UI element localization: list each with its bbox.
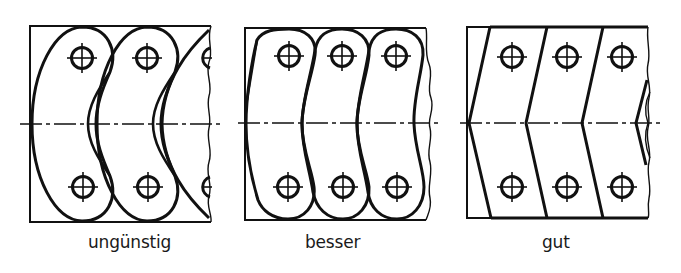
hole-icon (607, 42, 637, 72)
hole-icon (552, 42, 582, 72)
hole-icon (132, 43, 162, 73)
caption-gut: gut (542, 232, 570, 252)
hole-icon (382, 172, 412, 202)
hole-icon (68, 172, 98, 202)
hole-icon (497, 42, 527, 72)
caption-besser: besser (305, 232, 360, 252)
hole-icon (273, 172, 303, 202)
panel-gut (460, 27, 661, 218)
hole-icon (381, 41, 411, 71)
panel-unguenstig (20, 26, 222, 222)
hole-icon (327, 41, 357, 71)
caption-unguenstig: ungünstig (88, 232, 171, 252)
curved-link-1 (246, 29, 315, 219)
hole-icon (328, 172, 358, 202)
curved-link-3 (357, 29, 424, 219)
hole-icon (497, 172, 527, 202)
hole-icon (607, 172, 637, 202)
hole-icon (133, 172, 163, 202)
hole-icon (274, 41, 304, 71)
panel-besser (238, 28, 440, 220)
curved-link-2 (302, 29, 369, 219)
break-line (426, 28, 432, 220)
hole-icon (552, 172, 582, 202)
hole-icon (67, 43, 97, 73)
